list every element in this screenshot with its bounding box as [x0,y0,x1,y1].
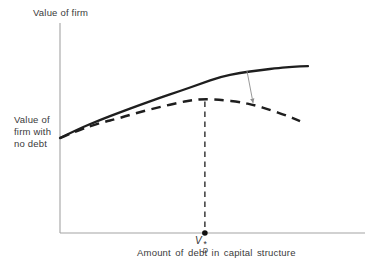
no-debt-value-label: Value of firm with no debt [14,114,51,150]
optimal-debt-label-base: V [195,235,202,247]
cost-gap-arrow [247,71,253,103]
x-axis-label: Amount of debt in capital structure [137,247,296,259]
capital-structure-value-figure: Value of firm Value of firm with no debt… [0,0,376,265]
y-axis-title: Value of firm [33,7,88,19]
dashed-value-curve [60,99,300,138]
plot-canvas [0,0,376,265]
